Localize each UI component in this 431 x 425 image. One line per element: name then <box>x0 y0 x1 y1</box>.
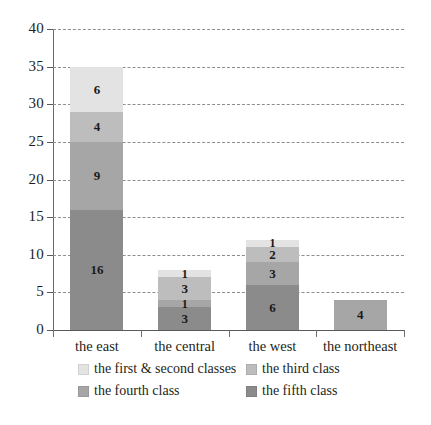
y-axis-tick-label: 30 <box>4 96 44 111</box>
legend-label: the third class <box>262 361 340 377</box>
legend-label: the fifth class <box>262 383 337 399</box>
bar-segment[interactable]: 4 <box>70 112 123 142</box>
bar-segment[interactable]: 4 <box>334 300 387 330</box>
legend-item[interactable]: the fourth class <box>78 383 246 399</box>
bar-segment[interactable]: 2 <box>246 247 299 262</box>
bar-segment-value-label: 3 <box>181 282 188 295</box>
bar-group[interactable]: 1313 <box>158 29 211 330</box>
legend-color-swatch <box>246 364 257 375</box>
bar-segment[interactable]: 3 <box>158 307 211 330</box>
x-axis-category-label: the east <box>53 338 141 355</box>
y-axis-tick-label: 40 <box>4 21 44 36</box>
bar-segment[interactable]: 1 <box>246 240 299 248</box>
y-axis-tick-label: 35 <box>4 59 44 74</box>
bar-segment-value-label: 16 <box>90 263 103 276</box>
plot-area: 64916131312364 <box>53 29 404 330</box>
legend-label: the first & second classes <box>94 361 236 377</box>
legend-item[interactable]: the fifth class <box>246 383 368 399</box>
y-axis-tick-label: 0 <box>4 322 44 337</box>
legend-color-swatch <box>78 386 89 397</box>
y-axis-tick-label: 15 <box>4 209 44 224</box>
x-axis-tick-mark <box>53 330 54 337</box>
y-axis-tick-label: 25 <box>4 134 44 149</box>
stacked-bar-chart: 4035302520151050 64916131312364 the east… <box>0 0 431 425</box>
y-axis-labels: 4035302520151050 <box>0 0 44 425</box>
legend-item[interactable]: the third class <box>246 361 368 377</box>
x-axis-tick-mark <box>229 330 230 337</box>
bar-segment[interactable]: 16 <box>70 210 123 330</box>
bar-segment[interactable]: 6 <box>70 67 123 112</box>
bar-segment-value-label: 4 <box>94 120 101 133</box>
y-axis-tick-label: 5 <box>4 284 44 299</box>
bar-group[interactable]: 4 <box>334 29 387 330</box>
bar-segment-value-label: 3 <box>181 312 188 325</box>
bar-segment-value-label: 9 <box>94 169 101 182</box>
stacked-bar[interactable]: 1313 <box>158 270 211 330</box>
bar-segment-value-label: 4 <box>357 308 364 321</box>
bar-segment-value-label: 1 <box>182 268 188 280</box>
x-axis-tick-mark <box>316 330 317 337</box>
bar-segment-value-label: 6 <box>94 83 101 96</box>
bar-segment-value-label: 3 <box>269 267 276 280</box>
bar-segment[interactable]: 6 <box>246 285 299 330</box>
legend-item[interactable]: the first & second classes <box>78 361 246 377</box>
x-axis-category-label: the central <box>141 338 229 355</box>
bar-group[interactable]: 64916 <box>70 29 123 330</box>
legend-color-swatch <box>246 386 257 397</box>
stacked-bar[interactable]: 4 <box>334 300 387 330</box>
bar-segment-value-label: 6 <box>269 301 276 314</box>
bar-segment[interactable]: 9 <box>70 142 123 210</box>
chart-legend: the first & second classesthe third clas… <box>78 361 368 399</box>
y-axis-tick-label: 20 <box>4 172 44 187</box>
bar-segment-value-label: 2 <box>269 248 276 261</box>
x-axis-category-label: the northeast <box>316 338 404 355</box>
x-axis-category-label: the west <box>229 338 317 355</box>
bar-segment[interactable]: 3 <box>246 262 299 285</box>
bar-group[interactable]: 1236 <box>246 29 299 330</box>
bar-segment-value-label: 1 <box>182 298 188 310</box>
bar-segment[interactable]: 1 <box>158 300 211 308</box>
stacked-bar[interactable]: 64916 <box>70 67 123 330</box>
stacked-bar[interactable]: 1236 <box>246 240 299 330</box>
bar-segment[interactable]: 1 <box>158 270 211 278</box>
legend-color-swatch <box>78 364 89 375</box>
x-axis-tick-mark <box>404 330 405 337</box>
legend-label: the fourth class <box>94 383 180 399</box>
y-axis-tick-label: 10 <box>4 247 44 262</box>
x-axis-tick-mark <box>141 330 142 337</box>
